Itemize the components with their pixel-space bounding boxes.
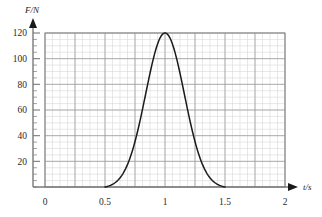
chart-figure: F/N t/s 00.511.52 20406080100120 <box>0 0 322 217</box>
x-tick-label: 0 <box>43 197 48 207</box>
x-tick-label: 2 <box>283 197 288 207</box>
force-time-graph: F/N t/s 00.511.52 20406080100120 <box>0 0 322 217</box>
y-tick-label: 40 <box>18 131 28 141</box>
y-tick-label: 20 <box>18 157 28 167</box>
y-tick-label: 100 <box>13 54 28 64</box>
x-tick-label: 1 <box>163 197 168 207</box>
y-tick-label: 60 <box>18 105 28 115</box>
y-tick-label: 80 <box>18 80 28 90</box>
x-tick-label: 0.5 <box>99 197 111 207</box>
x-tick-label: 1.5 <box>219 197 231 207</box>
y-axis-title: F/N <box>24 5 40 15</box>
y-tick-label: 120 <box>13 28 28 38</box>
x-axis-title: t/s <box>303 182 312 192</box>
